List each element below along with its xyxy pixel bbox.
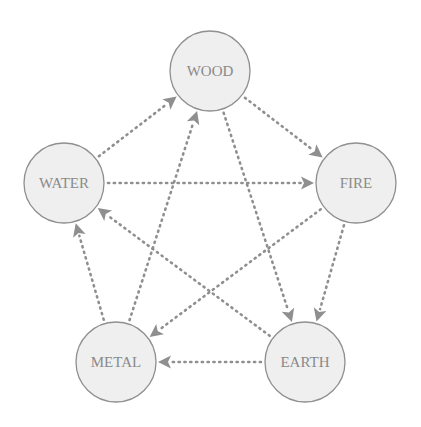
arrowhead-icon [158,356,171,369]
five-elements-diagram: WOODFIREEARTHMETALWATER [0,0,421,427]
dotted-line [130,123,194,320]
controlling-arrow-earth-to-water [98,208,270,336]
dotted-line [99,104,166,156]
arrowhead-icon [162,97,176,110]
node-label: METAL [91,354,141,370]
controlling-arrow-metal-to-wood [130,111,200,320]
controlling-arrow-fire-to-metal [150,209,321,337]
node-water: WATER [24,143,104,223]
generating-arrow-earth-to-metal [158,356,261,369]
dotted-line [108,216,270,336]
arrowhead-icon [301,177,314,190]
dotted-line [79,236,103,320]
generating-arrow-water-to-wood [99,97,177,157]
node-earth: EARTH [265,322,345,402]
node-wood: WOOD [170,31,250,111]
dotted-line [320,225,344,309]
generating-arrow-wood-to-fire [245,98,323,158]
dotted-line [224,113,288,310]
arrowhead-icon [150,324,164,337]
controlling-arrow-wood-to-earth [224,113,294,322]
controlling-arrow-water-to-fire [108,177,314,190]
generating-arrow-metal-to-water [73,223,104,319]
generating-arrow-fire-to-earth [314,225,344,321]
node-fire: FIRE [316,143,396,223]
nodes-layer: WOODFIREEARTHMETALWATER [24,31,396,402]
node-metal: METAL [76,322,156,402]
node-label: FIRE [340,175,373,191]
arrowhead-icon [187,111,199,125]
dotted-line [245,98,312,150]
node-label: WATER [39,175,89,191]
node-label: EARTH [280,354,329,370]
arrowhead-icon [98,208,112,221]
arrowhead-icon [282,308,294,322]
node-label: WOOD [187,63,234,79]
arrowhead-icon [308,144,322,157]
dotted-line [160,209,321,329]
